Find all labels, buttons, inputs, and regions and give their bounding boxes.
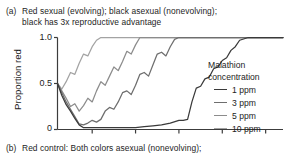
legend-entry-10-ppm: 10 ppm: [214, 122, 288, 135]
y-axis-title: Proportion red: [12, 34, 23, 126]
legend-entry-5-ppm: 5 ppm: [214, 109, 288, 122]
caption-b-tag: (b): [6, 143, 22, 154]
legend-title-line2: concentration: [208, 72, 288, 84]
chart-legend: Malathion concentration 1 ppm3 ppm5 ppm1…: [208, 60, 288, 135]
legend-label: 5 ppm: [232, 111, 256, 121]
legend-label: 3 ppm: [232, 98, 256, 108]
y-tick-label-0.5: 0.5: [26, 78, 52, 88]
caption-b: (b)Red control: Both colors asexual (non…: [6, 143, 201, 154]
figure-panel: (a)Red sexual (evolving); black asexual …: [0, 0, 289, 168]
caption-b-line1: Red control: Both colors asexual (nonevo…: [22, 143, 201, 153]
legend-label: 10 ppm: [232, 124, 261, 134]
y-tick-label-1.0: 1.0: [26, 32, 52, 42]
legend-line-swatch: [214, 102, 227, 103]
legend-entry-3-ppm: 3 ppm: [214, 96, 288, 109]
caption-a: (a)Red sexual (evolving); black asexual …: [6, 6, 217, 28]
legend-entries: 1 ppm3 ppm5 ppm10 ppm: [208, 83, 288, 135]
caption-a-tag: (a): [6, 6, 22, 17]
chart: 1.0 0.5 0 Proportion red Malathion conce…: [0, 30, 289, 138]
caption-a-line2: black has 3x reproductive advantage: [6, 17, 217, 28]
legend-line-swatch: [214, 89, 227, 90]
legend-title-line1: Malathion: [208, 60, 288, 72]
legend-line-swatch: [214, 128, 227, 129]
legend-line-swatch: [214, 115, 227, 116]
legend-label: 1 ppm: [232, 85, 256, 95]
y-tick-label-0: 0: [26, 123, 52, 133]
caption-a-line1: Red sexual (evolving); black asexual (no…: [22, 6, 217, 16]
legend-entry-1-ppm: 1 ppm: [214, 83, 288, 96]
